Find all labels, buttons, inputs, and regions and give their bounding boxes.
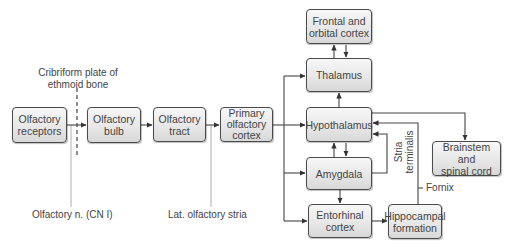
lateral-olfactory-stria-label: Lat. olfactory stria	[168, 209, 247, 221]
node-olfactory-receptors: Olfactory receptors	[12, 107, 67, 143]
node-olfactory-tract: Olfactory tract	[153, 107, 206, 142]
node-frontal-orbital-cortex: Frontal and orbital cortex	[306, 9, 372, 44]
node-hypothalamus: Hypothalamus	[306, 107, 372, 142]
node-thalamus: Thalamus	[306, 58, 372, 92]
fornix-label: Fornix	[426, 182, 454, 194]
olfactory-nerve-label: Olfactory n. (CN I)	[32, 209, 113, 221]
node-brainstem-spinal-cord: Brainstem and spinal cord	[432, 141, 501, 176]
cribriform-plate-label: Cribriform plate of ethmoid bone	[33, 67, 123, 91]
node-primary-olfactory-cortex: Primary olfactory cortex	[220, 107, 273, 142]
node-olfactory-bulb: Olfactory bulb	[87, 107, 141, 143]
stria-terminalis-label: Stria terminalis	[393, 126, 415, 178]
node-entorhinal-cortex: Entorhinal cortex	[308, 204, 372, 238]
node-amygdala: Amygdala	[306, 157, 372, 190]
node-hippocampal-formation: Hippocampal formation	[388, 204, 442, 239]
